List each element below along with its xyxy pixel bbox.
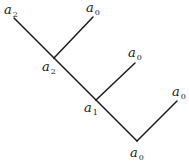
node-label-root_tip: a2 [4,2,18,19]
edge-root_tip-node_a2 [14,18,54,58]
node-label-leaf3: a0 [172,84,186,101]
node-label-node_a1: a1 [84,100,98,117]
edge-node_a2-leaf1 [54,17,93,58]
tree-edges [14,17,177,141]
node-label-leaf1: a0 [86,0,100,17]
edge-bottom-leaf3 [137,101,177,141]
node-label-node_a2: a2 [42,59,56,76]
tree-diagram: a2a0a2a0a1a0a0 [0,0,189,165]
edge-node_a2-node_a1 [54,58,96,100]
node-label-bottom: a0 [130,145,144,162]
edge-node_a1-bottom [96,100,137,141]
tree-labels: a2a0a2a0a1a0a0 [4,0,186,162]
node-label-leaf2: a0 [128,45,142,62]
edge-node_a1-leaf2 [96,63,135,100]
